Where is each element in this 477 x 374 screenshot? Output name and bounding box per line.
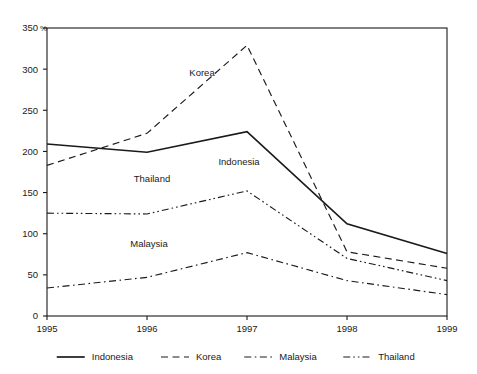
line-chart: 050100150200250300350 % 1995199619971998… — [0, 0, 477, 374]
data-series-group — [47, 45, 447, 294]
y-tick-label: 350 — [22, 22, 38, 33]
y-tick-label: 100 — [22, 228, 38, 239]
x-tick-label: 1995 — [36, 323, 57, 334]
plot-frame — [47, 28, 447, 316]
y-tick-label: 0 — [33, 310, 38, 321]
chart-container: 050100150200250300350 % 1995199619971998… — [0, 0, 477, 374]
series-line-indonesia — [47, 132, 447, 254]
y-tick-label: 250 — [22, 105, 38, 116]
x-tick-label: 1997 — [236, 323, 257, 334]
y-tick-label: 300 — [22, 64, 38, 75]
legend-label-malaysia: Malaysia — [279, 351, 317, 362]
y-axis-unit-label: % — [40, 24, 47, 33]
chart-axes — [47, 28, 447, 316]
y-tick-label: 50 — [27, 269, 38, 280]
x-tick-label: 1999 — [436, 323, 457, 334]
legend-label-thailand: Thailand — [378, 351, 414, 362]
series-inline-label: Malaysia — [130, 238, 168, 249]
series-inline-label: Korea — [189, 67, 215, 78]
y-axis: 050100150200250300350 — [22, 22, 47, 321]
y-tick-label: 200 — [22, 146, 38, 157]
x-tick-label: 1998 — [336, 323, 357, 334]
series-inline-label: Thailand — [134, 173, 170, 184]
x-axis: 19951996199719981999 — [36, 316, 457, 334]
chart-legend: IndonesiaKoreaMalaysiaThailand — [57, 351, 415, 362]
legend-label-korea: Korea — [196, 351, 222, 362]
legend-label-indonesia: Indonesia — [92, 351, 134, 362]
series-inline-label: Indonesia — [218, 156, 260, 167]
chart-annotations: KoreaIndonesiaThailandMalaysia — [130, 67, 260, 249]
y-tick-label: 150 — [22, 187, 38, 198]
x-tick-label: 1996 — [136, 323, 157, 334]
